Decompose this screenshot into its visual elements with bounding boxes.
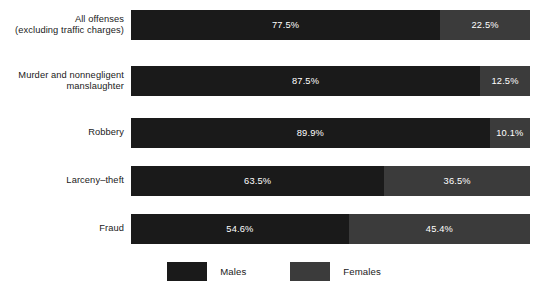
bar-row: Fraud 54.6% 45.4% bbox=[0, 214, 548, 244]
legend-item-females: Females bbox=[290, 262, 381, 281]
category-label: All offenses (excluding traffic charges) bbox=[0, 14, 131, 37]
legend-item-males: Males bbox=[167, 262, 246, 281]
bar-row: Murder and nonnegligent manslaughter 87.… bbox=[0, 66, 548, 96]
bar-segment-females: 45.4% bbox=[349, 214, 530, 244]
category-label: Larceny–theft bbox=[0, 175, 131, 187]
bar-track: 54.6% 45.4% bbox=[131, 214, 530, 244]
bar-segment-females: 36.5% bbox=[384, 166, 530, 196]
legend-swatch-females-icon bbox=[290, 262, 330, 281]
bar-segment-females: 12.5% bbox=[480, 66, 530, 96]
bar-segment-females: 22.5% bbox=[440, 10, 530, 40]
bar-row: All offenses (excluding traffic charges)… bbox=[0, 10, 548, 40]
bar-track: 87.5% 12.5% bbox=[131, 66, 530, 96]
bar-track: 63.5% 36.5% bbox=[131, 166, 530, 196]
bar-segment-males: 89.9% bbox=[131, 118, 490, 148]
category-label: Murder and nonnegligent manslaughter bbox=[0, 70, 131, 93]
bar-row: Robbery 89.9% 10.1% bbox=[0, 118, 548, 148]
bar-segment-females: 10.1% bbox=[490, 118, 530, 148]
category-label: Fraud bbox=[0, 223, 131, 235]
bar-segment-males: 87.5% bbox=[131, 66, 480, 96]
bar-row: Larceny–theft 63.5% 36.5% bbox=[0, 166, 548, 196]
bar-track: 77.5% 22.5% bbox=[131, 10, 530, 40]
category-label: Robbery bbox=[0, 127, 131, 139]
bar-segment-males: 54.6% bbox=[131, 214, 349, 244]
legend-label-females: Females bbox=[343, 266, 381, 277]
bar-segment-males: 63.5% bbox=[131, 166, 384, 196]
legend-label-males: Males bbox=[220, 266, 246, 277]
bar-track: 89.9% 10.1% bbox=[131, 118, 530, 148]
stacked-bar-chart: All offenses (excluding traffic charges)… bbox=[0, 0, 548, 291]
legend-swatch-males-icon bbox=[167, 262, 207, 281]
chart-legend: Males Females bbox=[0, 258, 548, 284]
plot-area: All offenses (excluding traffic charges)… bbox=[0, 0, 548, 252]
bar-segment-males: 77.5% bbox=[131, 10, 440, 40]
